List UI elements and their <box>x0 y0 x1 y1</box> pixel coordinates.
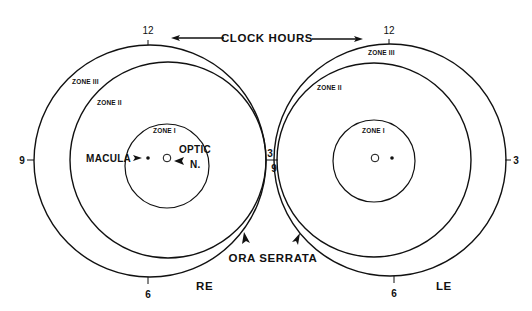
ora-serrata-annotation: ORA SERRATA <box>229 232 318 264</box>
clock-hours-annotation: CLOCK HOURS <box>171 32 363 44</box>
clock-hours-label: CLOCK HOURS <box>221 32 313 44</box>
optic-label-line1: OPTIC <box>179 144 211 155</box>
le-clock-3-label: 3 <box>513 155 519 166</box>
le-zone2-label: ZONE II <box>317 84 342 91</box>
ora-serrata-left-pointer-arrow <box>242 232 250 244</box>
le-clock-9-label: 9 <box>271 163 277 174</box>
re-zone3-label: ZONE III <box>72 78 99 85</box>
re-macula-dot <box>146 156 150 160</box>
re-zone3-boundary-ora-serrata <box>34 45 266 277</box>
re-zone1-label: ZONE I <box>153 127 176 134</box>
re-zone2-label: ZONE II <box>97 99 122 106</box>
le-eye-label: LE <box>436 280 452 292</box>
re-clock-9-label: 9 <box>19 155 25 166</box>
re-optic-disc <box>163 154 171 162</box>
retina-zone-diagram: 12 6 9 3 ZONE III ZONE II ZONE I MACULA … <box>0 0 532 311</box>
le-zone1-label: ZONE I <box>362 127 385 134</box>
re-clock-6-label: 6 <box>145 289 151 300</box>
le-clock-12-label: 12 <box>383 25 395 36</box>
ora-serrata-label: ORA SERRATA <box>229 252 318 264</box>
le-optic-disc <box>371 154 379 162</box>
macula-pointer-arrow <box>133 155 142 161</box>
ora-serrata-right-pointer-arrow <box>292 233 300 245</box>
optic-label-line2: N. <box>190 159 201 170</box>
le-zone3-label: ZONE III <box>368 49 395 56</box>
macula-label: MACULA <box>86 153 131 164</box>
re-clock-12-label: 12 <box>142 25 154 36</box>
optic-nerve-pointer-arrow <box>174 157 184 165</box>
le-macula-dot <box>390 156 394 160</box>
le-clock-6-label: 6 <box>391 288 397 299</box>
re-eye-label: RE <box>196 280 213 292</box>
re-clock-3-label: 3 <box>267 148 273 159</box>
